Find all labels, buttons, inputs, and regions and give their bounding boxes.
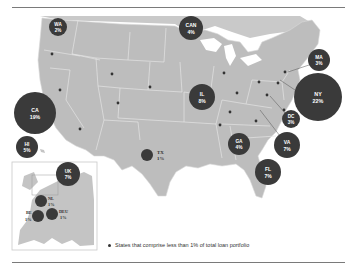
bubble-ga-code: GA [235, 139, 243, 144]
bubble-tx-pct: 1% [157, 156, 164, 161]
bubble-ny-pct: 22% [313, 98, 324, 104]
bubble-wa-pct: 2% [55, 28, 62, 33]
loan-portfolio-map: WA 2% CAN 4% MA 3% CA 19% IL 8% NY 22% D… [0, 0, 358, 267]
small-dot-marker-icon [108, 244, 111, 247]
bubble-be-code: BE [26, 210, 32, 215]
bubble-uk-pct: 7% [65, 175, 72, 180]
bubble-deu-code: DEU [59, 209, 68, 214]
bubble-ga[interactable]: GA 4% [228, 133, 250, 155]
bubble-tx-code: TX [157, 150, 164, 155]
bubble-ma-code: MA [315, 55, 323, 60]
bubble-wa-code: WA [54, 22, 62, 27]
bubble-ny[interactable]: NY 22% [294, 73, 342, 121]
bubble-hi-code: HI [25, 142, 30, 147]
bubble-dc-pct: 3% [288, 120, 295, 125]
bubble-can[interactable]: CAN 4% [179, 16, 203, 40]
legend: States that comprise less than 1% of tot… [108, 242, 249, 248]
europe-inset [12, 162, 97, 250]
bubble-uk[interactable]: UK 7% [56, 162, 80, 186]
bubble-ma[interactable]: MA 3% [308, 49, 330, 71]
bubble-il-pct: 8% [198, 98, 206, 104]
bubble-ca-pct: 19% [30, 114, 41, 120]
bubble-hi-pct: 5% [24, 148, 32, 153]
bubble-va-code: VA [284, 139, 291, 145]
bubble-can-code: CAN [186, 22, 197, 28]
legend-text: States that comprise less than 1% of tot… [115, 242, 249, 248]
bubble-uk-code: UK [65, 169, 72, 174]
bubble-fl-code: FL [265, 166, 271, 172]
bubble-ma-pct: 3% [316, 61, 324, 66]
bubble-ny-code: NY [314, 91, 322, 97]
bubble-can-pct: 4% [187, 29, 195, 35]
bubble-il[interactable]: IL 8% [189, 84, 215, 110]
bubble-va[interactable]: VA 7% [274, 132, 300, 158]
bubble-dc[interactable]: DC 3% [282, 110, 300, 128]
bubble-va-pct: 7% [283, 146, 291, 152]
bubble-ca[interactable]: CA 19% [14, 92, 56, 134]
bubble-hi[interactable]: HI 5% [16, 136, 45, 158]
bubble-ga-pct: 4% [236, 145, 244, 150]
bubble-dc-code: DC [288, 114, 295, 119]
bubble-wa[interactable]: WA 2% [49, 18, 67, 36]
bubble-deu-pct: 1% [60, 215, 66, 220]
bubble-fl-pct: 7% [264, 173, 272, 179]
bubble-ca-code: CA [31, 107, 39, 113]
bubble-fl[interactable]: FL 7% [255, 159, 281, 185]
bubble-be-pct: 1% [25, 217, 31, 222]
bubble-nl-pct: 1% [48, 202, 54, 207]
bubble-il-code: IL [200, 91, 204, 97]
bubble-nl-code: NL [48, 196, 54, 201]
